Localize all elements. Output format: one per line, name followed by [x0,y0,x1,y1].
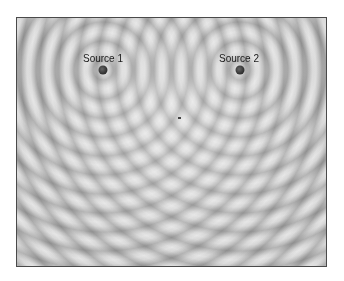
source-1-dot-icon [99,66,108,75]
center-marker-icon [178,117,181,119]
interference-pattern [17,18,326,266]
source-1-label: Source 1 [83,53,123,64]
source-2-label: Source 2 [219,53,259,64]
pattern-shading [17,18,326,266]
interference-diagram-frame: Source 1 Source 2 [16,17,327,267]
source-2-dot-icon [236,66,245,75]
